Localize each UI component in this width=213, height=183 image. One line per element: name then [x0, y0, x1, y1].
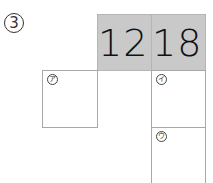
problem-number: 3 [4, 13, 24, 33]
answer-box-u[interactable]: ウ [151, 127, 206, 183]
box-label-u: ウ [156, 131, 167, 142]
box-label-i: イ [156, 74, 167, 85]
header-cell-18: 18 [151, 14, 206, 71]
answer-box-a[interactable]: ア [42, 70, 98, 128]
header-cell-12: 12 [97, 14, 152, 71]
box-label-a: ア [47, 74, 58, 85]
answer-box-i[interactable]: イ [151, 70, 206, 128]
